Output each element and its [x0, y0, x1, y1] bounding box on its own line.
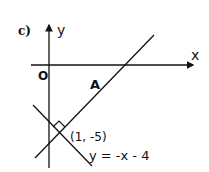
line-a-label: A: [90, 77, 100, 92]
right-angle-marker: [53, 121, 65, 127]
coordinate-diagram: c) x y O A (1, -5) y = -x - 4: [0, 0, 209, 172]
x-axis-label: x: [191, 47, 199, 63]
perpendicular-equation: y = -x - 4: [89, 148, 149, 163]
y-axis-label: y: [57, 22, 65, 38]
part-label: c): [18, 24, 31, 38]
intersection-label: (1, -5): [70, 130, 107, 144]
origin-label: O: [38, 69, 48, 83]
